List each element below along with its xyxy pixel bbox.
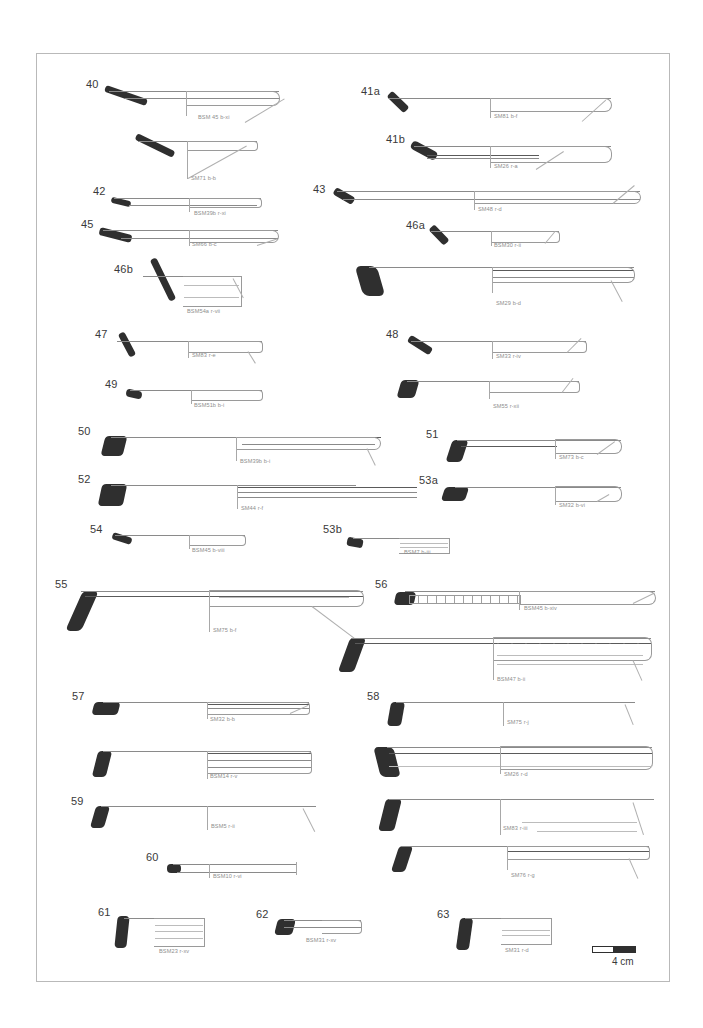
vessel-body <box>187 141 258 151</box>
catalogue-code: BSM51b b-i <box>194 403 224 409</box>
profile-line <box>396 702 635 703</box>
figure-number-61: 61 <box>98 907 111 918</box>
rim-profile <box>373 747 400 777</box>
profile-line <box>173 864 296 865</box>
figure-number-57: 57 <box>72 691 85 702</box>
profile-line <box>237 497 417 498</box>
rib-line <box>502 935 550 936</box>
figure-number-52: 52 <box>78 474 91 485</box>
rim-profile <box>98 484 128 506</box>
interior-line <box>522 822 637 823</box>
rib-line <box>155 938 203 939</box>
vessel-body <box>189 535 246 546</box>
rim-profile <box>387 702 405 726</box>
vessel-body <box>490 146 612 163</box>
interior-line <box>497 664 643 665</box>
figure-number-46a: 46a <box>406 220 425 231</box>
break-line <box>303 808 316 832</box>
vessel-body <box>493 637 652 661</box>
rim-profile <box>101 436 128 456</box>
profile-line <box>296 862 297 875</box>
catalogue-code: BSM31 r-xv <box>306 938 336 944</box>
figure-number-50: 50 <box>78 426 91 437</box>
plate-frame: 40 BSM 45 b-xi SM71 b-b 42 BSM39b r-xi 4… <box>36 53 670 982</box>
catalogue-code: SM83 r-iii <box>503 826 528 832</box>
catalogue-code: BSM 45 b-xi <box>198 115 230 121</box>
axis-tick <box>236 437 237 461</box>
axis-tick <box>500 799 501 835</box>
axis-tick <box>492 341 493 359</box>
rim-profile <box>355 266 386 296</box>
interior-line <box>389 766 652 767</box>
axis-tick <box>209 864 210 878</box>
vessel-body <box>555 439 622 454</box>
catalogue-code: SM48 r-d <box>478 207 502 213</box>
profile-line <box>389 799 654 800</box>
rim-profile <box>150 257 176 301</box>
catalogue-code: SM76 r-g <box>511 873 535 879</box>
figure-number-60: 60 <box>146 852 159 863</box>
axis-tick <box>189 230 190 246</box>
figure-number-53b: 53b <box>323 524 342 535</box>
vessel-body <box>186 91 280 106</box>
figure-number-41b: 41b <box>386 134 405 145</box>
rim-profile <box>111 532 132 545</box>
scale-bar-segment-white <box>592 946 614 953</box>
vessel-body <box>236 437 381 450</box>
catalogue-code: BSM39b b-i <box>240 459 270 465</box>
vessel-body <box>519 591 656 605</box>
rim-profile <box>90 806 110 828</box>
catalogue-code: BSM5 r-ii <box>211 824 235 830</box>
decorated-rim-band <box>409 595 521 604</box>
axis-tick <box>519 591 520 610</box>
profile-line <box>111 485 356 486</box>
catalogue-code: BSM45 b-xiv <box>524 606 557 612</box>
rim-profile <box>378 799 402 831</box>
rim-profile <box>104 85 148 106</box>
catalogue-code: SM32 b-b <box>210 717 235 723</box>
catalogue-code: SM31 r-d <box>505 948 529 954</box>
rim-profile <box>387 91 410 113</box>
axis-tick <box>187 141 188 179</box>
decorated-rim-band <box>497 643 643 644</box>
break-line <box>629 858 639 879</box>
catalogue-code: SM71 b-b <box>191 176 216 182</box>
break-line <box>611 280 623 302</box>
axis-tick <box>207 751 208 779</box>
vessel-body <box>191 390 263 401</box>
figure-number-51: 51 <box>426 429 439 440</box>
rim-profile <box>118 331 136 357</box>
axis-tick <box>189 535 190 549</box>
figure-number-58: 58 <box>367 691 380 702</box>
axis-tick <box>493 637 494 680</box>
rib-line <box>155 925 203 926</box>
profile-line <box>237 492 417 493</box>
axis-tick <box>555 486 556 505</box>
scale-bar-label: 4 cm <box>612 956 634 967</box>
axis-tick <box>188 341 189 358</box>
break-line <box>367 448 376 466</box>
figure-number-41a: 41a <box>361 86 380 97</box>
rim-profile <box>114 916 129 948</box>
catalogue-code: BSM10 r-vi <box>213 874 242 880</box>
catalogue-code: SM44 r-f <box>241 506 263 512</box>
catalogue-code: BSM54a r-vii <box>187 309 220 315</box>
figure-number-42: 42 <box>93 186 106 197</box>
catalogue-code: SM73 b-c <box>559 455 584 461</box>
rim-profile <box>407 335 433 356</box>
vessel-body <box>492 267 635 283</box>
catalogue-code: BSM30 r-ii <box>494 243 521 249</box>
axis-tick <box>209 590 210 632</box>
vessel-body <box>322 920 362 934</box>
catalogue-code: BSM23 r-xv <box>159 949 189 955</box>
catalogue-code: SM32 b-vi <box>559 503 585 509</box>
axis-tick <box>503 702 504 726</box>
vessel-body <box>207 702 310 715</box>
axis-tick <box>474 191 475 210</box>
rim-profile <box>65 591 99 631</box>
figure-number-56: 56 <box>375 579 388 590</box>
catalogue-code: SM83 r-e <box>192 353 216 359</box>
axis-tick <box>490 98 491 118</box>
break-line <box>248 351 256 363</box>
catalogue-code: SM29 b-d <box>496 301 521 307</box>
